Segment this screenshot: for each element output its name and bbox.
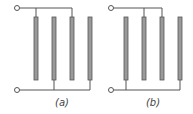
bottom-terminal-icon: [15, 88, 20, 93]
diagram-b-label: (b): [146, 97, 160, 108]
capacitor-plate: [88, 17, 92, 80]
capacitor-plate: [160, 17, 164, 80]
capacitor-plate: [52, 17, 56, 80]
capacitor-plate: [124, 17, 128, 80]
capacitor-plate: [142, 17, 146, 80]
diagram-a-label: (a): [55, 97, 69, 108]
bottom-terminal-icon: [109, 88, 114, 93]
capacitor-plate: [178, 17, 182, 80]
top-terminal-icon: [15, 6, 20, 11]
capacitor-plate-diagram: [0, 0, 193, 114]
capacitor-plate: [34, 17, 38, 80]
capacitor-plate: [70, 17, 74, 80]
top-terminal-icon: [109, 6, 114, 11]
